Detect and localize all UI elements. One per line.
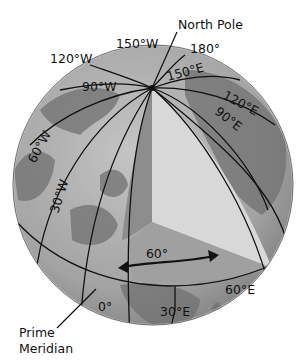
north-pole-label: North Pole — [178, 17, 243, 32]
globe-diagram: 60° North Pole 150°W 120°W 90°W 180° 150… — [0, 0, 306, 364]
label-90w: 90°W — [82, 79, 117, 94]
label-30e: 30°E — [160, 304, 190, 319]
label-0: 0° — [98, 299, 112, 314]
label-60e: 60°E — [225, 282, 255, 297]
angle-label: 60° — [146, 246, 168, 261]
label-150w: 150°W — [116, 36, 158, 51]
label-120w: 120°W — [50, 51, 92, 66]
label-180: 180° — [190, 41, 220, 56]
prime-meridian-label-line2: Meridian — [19, 341, 73, 356]
prime-meridian-label-line1: Prime — [19, 325, 55, 340]
